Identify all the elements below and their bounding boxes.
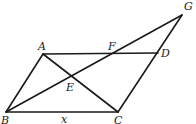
segment-AD	[43, 53, 158, 54]
segment-BG	[6, 15, 182, 112]
label-C: C	[114, 114, 123, 124]
geometry-diagram: A F D G E B x C	[0, 0, 196, 124]
label-B: B	[0, 114, 9, 124]
segment-AC	[43, 54, 118, 112]
label-D: D	[160, 47, 170, 60]
label-A: A	[37, 40, 46, 53]
label-E: E	[65, 81, 74, 94]
label-side-x: x	[61, 113, 68, 124]
segment-AB	[6, 54, 43, 112]
label-F: F	[107, 40, 116, 53]
segment-CG	[118, 15, 182, 112]
label-G: G	[184, 0, 193, 13]
